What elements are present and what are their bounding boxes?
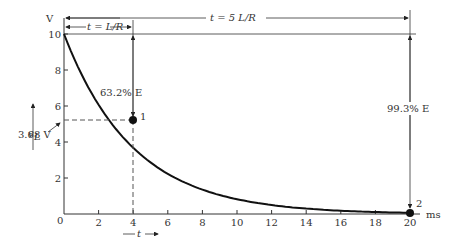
svg-text:2: 2 [55,173,61,184]
svg-text:12: 12 [265,217,278,228]
svg-text:4: 4 [55,137,61,148]
svg-text:10: 10 [48,29,61,40]
svg-text:0: 0 [57,215,63,226]
svg-text:8: 8 [199,217,205,228]
five-tau-label: t = 5 L/R [210,12,256,23]
x-unit-label: ms [426,209,441,220]
y-unit-label: V [45,13,54,24]
svg-text:18: 18 [369,217,382,228]
point-2 [406,209,414,217]
svg-text:20: 20 [404,217,417,228]
svg-text:6: 6 [55,101,61,112]
svg-text:8: 8 [55,65,61,76]
svg-text:2: 2 [416,198,422,209]
svg-text:6: 6 [165,217,171,228]
y-ticks: 246810 [48,29,68,184]
point-1 [129,116,137,124]
tau-label: t = L/R [87,21,124,32]
rl-decay-chart: 2468101214161820 246810 t = 5 L/R t = L/… [0,0,456,248]
svg-text:2: 2 [95,217,101,228]
drop-99-label: 99.3% E [387,103,429,114]
svg-text:4: 4 [130,217,136,228]
x-axis-label: t [137,228,142,239]
svg-text:1: 1 [140,111,146,122]
svg-text:L: L [33,131,41,142]
svg-text:10: 10 [231,217,244,228]
svg-text:14: 14 [300,217,313,228]
decay-curve [64,34,410,213]
drop-63-label: 63.2% E [100,87,142,98]
svg-text:16: 16 [334,217,347,228]
